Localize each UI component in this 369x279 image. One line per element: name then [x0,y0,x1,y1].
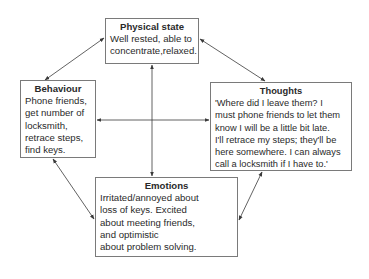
node-emotions: Emotions Irritated/annoyed about loss of… [95,177,238,257]
node-body: Well rested, able to concentrate,relaxed… [110,33,194,57]
node-body: Phone friends, get number of locksmith, … [25,95,91,156]
arrow-physical-thoughts [200,39,265,81]
node-title: Emotions [100,180,233,192]
arrow-physical-behaviour [45,38,104,80]
node-thoughts: Thoughts 'Where did I leave them? I must… [210,82,352,171]
node-title: Thoughts [215,85,347,97]
node-body: Irritated/annoyed about loss of keys. Ex… [100,192,233,253]
node-title: Physical state [110,21,194,33]
arrow-thoughts-emotions [239,172,262,220]
node-body: 'Where did I leave them? I must phone fr… [215,97,347,170]
node-behaviour: Behaviour Phone friends, get number of l… [20,80,96,158]
arrow-behaviour-emotions [53,159,94,219]
node-title: Behaviour [25,83,91,95]
node-physical-state: Physical state Well rested, able to conc… [105,18,199,64]
